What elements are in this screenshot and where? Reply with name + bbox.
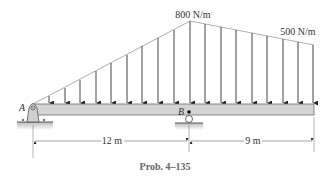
load-arrows <box>49 21 313 103</box>
point-b-marker <box>187 110 191 114</box>
bolt-icon <box>43 119 45 121</box>
ground-shadow <box>17 122 53 130</box>
right-span-dimension: 9 m <box>245 135 261 146</box>
bolt-icon <box>22 119 24 121</box>
end-load-label: 500 N/m <box>280 26 316 37</box>
beam-diagram: 800 N/m 500 N/m A B 12 m 9 m Prob. 4–135 <box>0 0 335 179</box>
peak-load-label: 800 N/m <box>175 9 211 20</box>
support-b-label: B <box>178 106 184 117</box>
roller-icon <box>186 116 193 123</box>
figure-caption: Prob. 4–135 <box>140 161 191 172</box>
support-a-label: A <box>18 102 26 113</box>
left-span-dimension: 12 m <box>102 135 123 146</box>
extension-lines <box>33 117 314 158</box>
beam <box>33 104 314 115</box>
